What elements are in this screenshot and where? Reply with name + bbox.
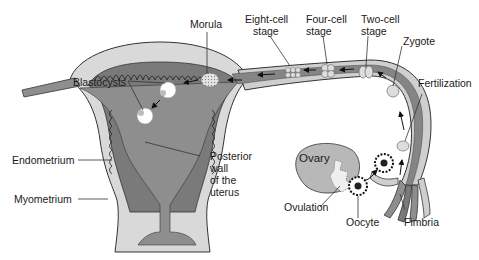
label-posterior-3: of the bbox=[210, 174, 236, 186]
label-endometrium: Endometrium bbox=[12, 154, 75, 166]
oocyte-at-fimbria bbox=[375, 154, 393, 172]
fimbria-shape bbox=[370, 172, 430, 222]
label-posterior-1: Posterior bbox=[210, 150, 253, 162]
two-cell-embryo bbox=[359, 66, 373, 78]
label-oocyte: Oocyte bbox=[346, 216, 379, 228]
left-tube-stub bbox=[22, 78, 80, 97]
fertilization-cell bbox=[397, 141, 409, 151]
label-eight-cell-2: stage bbox=[253, 25, 279, 37]
leader-eight-cell bbox=[270, 36, 290, 66]
label-eight-cell-1: Eight-cell bbox=[245, 13, 288, 25]
label-four-cell-1: Four-cell bbox=[306, 13, 347, 25]
arrow-tube-6 bbox=[400, 112, 404, 130]
label-fimbria: Fimbria bbox=[404, 216, 439, 228]
label-posterior-2: wall bbox=[209, 162, 228, 174]
label-myometrium: Myometrium bbox=[14, 193, 72, 205]
label-ovulation: Ovulation bbox=[284, 201, 329, 213]
reproductive-tract-diagram: Morula Eight-cell stage Four-cell stage … bbox=[0, 0, 479, 260]
label-two-cell-2: stage bbox=[361, 25, 387, 37]
label-four-cell-2: stage bbox=[306, 25, 332, 37]
label-blastocysts: Blastocysts bbox=[73, 76, 126, 88]
leader-four-cell bbox=[323, 36, 327, 64]
blastocyst-2 bbox=[137, 108, 153, 124]
blastocyst-1 bbox=[160, 82, 176, 98]
label-morula: Morula bbox=[190, 18, 222, 30]
label-two-cell-1: Two-cell bbox=[361, 13, 400, 25]
morula-cell bbox=[201, 73, 219, 87]
zygote-cell bbox=[387, 85, 399, 97]
arrow-tube-7 bbox=[400, 160, 402, 175]
label-fertilization: Fertilization bbox=[418, 77, 472, 89]
oocyte-cell bbox=[349, 177, 367, 195]
eight-cell-embryo bbox=[286, 68, 301, 78]
label-ovary: Ovary bbox=[299, 152, 330, 164]
label-zygote: Zygote bbox=[403, 35, 435, 47]
label-posterior-4: uterus bbox=[210, 186, 239, 198]
